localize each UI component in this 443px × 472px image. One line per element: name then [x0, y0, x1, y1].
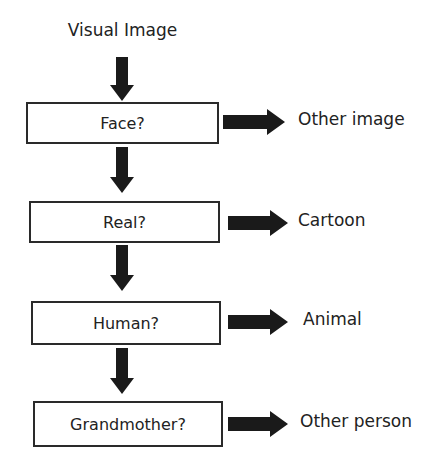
outcome-label: Other image — [298, 109, 405, 129]
right-arrow-icon — [228, 210, 288, 236]
decision-box-real: Real? — [29, 201, 220, 243]
down-arrow-icon — [110, 147, 134, 193]
outcome-label: Animal — [303, 309, 362, 329]
right-arrow-icon — [228, 309, 288, 335]
decision-label: Face? — [100, 114, 145, 133]
down-arrow-icon — [110, 245, 134, 291]
decision-box-face: Face? — [26, 102, 219, 144]
down-arrow-icon — [110, 57, 134, 101]
decision-label: Grandmother? — [70, 415, 186, 434]
decision-label: Human? — [93, 314, 159, 333]
down-arrow-icon — [110, 348, 134, 394]
decision-label: Real? — [103, 213, 146, 232]
outcome-label: Cartoon — [298, 210, 366, 230]
start-label: Visual Image — [60, 20, 185, 40]
right-arrow-icon — [223, 109, 285, 135]
decision-box-grandmother: Grandmother? — [33, 401, 223, 447]
decision-box-human: Human? — [31, 301, 221, 345]
right-arrow-icon — [228, 411, 288, 437]
outcome-label: Other person — [300, 411, 412, 431]
